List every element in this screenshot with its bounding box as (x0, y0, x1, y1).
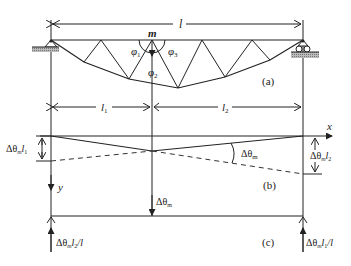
y-axis-label: y (57, 181, 63, 193)
load-label: Δθm (156, 196, 172, 208)
right-reaction-label: Δθml1/l (306, 237, 333, 249)
left-displacement-label: Δθml1 (6, 143, 27, 155)
l2-label: l2 (222, 101, 229, 115)
panel-a-label: (a) (262, 75, 275, 88)
web-members (84, 40, 270, 88)
l1-label: l1 (101, 101, 108, 115)
x-axis-label: x (326, 120, 332, 132)
panel-b-rotation: l1 l2 x Δθm Δθml1 Δθml2 y (b) (6, 101, 332, 193)
tangent-left-dashed (51, 151, 152, 161)
phi3-label: φ3 (168, 45, 178, 59)
node-m-label: m (148, 27, 157, 39)
pin-support-left (32, 40, 59, 53)
span-label: l (179, 17, 183, 31)
truss-diagram: l m φ1 φ3 φ2 (a) l1 l2 x Δθm Δθml1 (0, 0, 351, 266)
angle-arc-b (231, 143, 234, 163)
phi2-label: φ2 (148, 66, 158, 80)
panel-a-truss: l m φ1 φ3 φ2 (a) (32, 17, 319, 252)
left-reaction-label: Δθml2/l (56, 237, 83, 249)
panel-c-label: (c) (262, 236, 275, 249)
tangent-right-dashed (152, 151, 303, 174)
panel-b-label: (b) (263, 179, 276, 192)
phi1-label: φ1 (131, 45, 141, 59)
right-displacement-label: Δθml2 (310, 150, 331, 162)
angle-label-b: Δθm (241, 148, 258, 161)
deflection-line (51, 136, 303, 151)
panel-c-beam: Δθm Δθml2/l Δθml1/l (c) (47, 195, 333, 252)
roller-support-right (291, 40, 319, 59)
